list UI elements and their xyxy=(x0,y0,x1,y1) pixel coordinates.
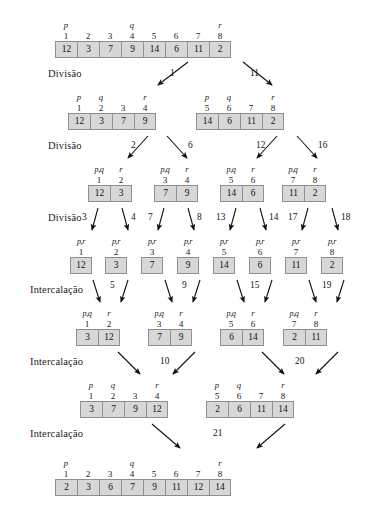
pointer-label xyxy=(77,458,99,469)
array-cell: 9 xyxy=(143,479,165,496)
index-label: 2 xyxy=(98,319,120,329)
array-cells: 211 xyxy=(283,329,327,346)
arrow-step-label: 13 xyxy=(216,212,225,222)
index-row: 34 xyxy=(148,319,192,329)
arrow-9 xyxy=(188,208,194,230)
array-L3-2: p,r23 xyxy=(105,236,127,274)
index-label: 7 xyxy=(187,31,209,41)
index-label: 8 xyxy=(321,247,343,257)
index-row: 7 xyxy=(285,247,307,257)
index-label: 6 xyxy=(249,247,271,257)
pointer-label: q xyxy=(218,92,240,103)
pointer-label: p,q xyxy=(148,308,170,319)
array-L3-3: p,r37 xyxy=(141,236,163,274)
array-L2-b: p,qr3479 xyxy=(154,164,198,202)
index-label: 4 xyxy=(121,31,143,41)
index-label: 1 xyxy=(80,391,102,401)
array-cell: 2 xyxy=(55,479,77,496)
array-cell: 12 xyxy=(68,113,90,130)
array-cell: 14 xyxy=(272,401,294,418)
index-row: 12345678 xyxy=(55,31,231,41)
array-cell: 3 xyxy=(76,329,98,346)
array-cells: 7 xyxy=(141,257,163,274)
pointer-label: q xyxy=(90,92,112,103)
array-cell: 9 xyxy=(134,113,156,130)
index-row: 78 xyxy=(283,319,327,329)
pointer-row: p,qr xyxy=(282,164,326,175)
index-label: 2 xyxy=(77,469,99,479)
index-label: 7 xyxy=(187,469,209,479)
index-label: 2 xyxy=(102,391,124,401)
array-cell: 3 xyxy=(90,113,112,130)
arrow-step-label: 8 xyxy=(197,212,202,222)
index-row: 56 xyxy=(220,175,264,185)
array-cells: 112 xyxy=(282,185,326,202)
pointer-row: p,r xyxy=(141,236,163,247)
pointer-label xyxy=(77,20,99,31)
pointer-label: p xyxy=(206,380,228,391)
index-label: 3 xyxy=(148,319,170,329)
array-cells: 9 xyxy=(177,257,199,274)
index-row: 1 xyxy=(70,247,92,257)
arrow-21 xyxy=(337,280,344,302)
array-cells: 614 xyxy=(220,329,264,346)
index-label: 7 xyxy=(282,175,304,185)
stage-label-1: Divisão xyxy=(48,140,82,151)
array-cells: 2 xyxy=(321,257,343,274)
arrow-step-label: 2 xyxy=(131,140,136,150)
pointer-row: p,r xyxy=(70,236,92,247)
pointer-label xyxy=(250,380,272,391)
array-cell: 9 xyxy=(121,41,143,58)
pointer-row: p,r xyxy=(177,236,199,247)
pointer-label: r xyxy=(209,458,231,469)
pointer-label: p xyxy=(55,20,77,31)
array-cells: 11 xyxy=(285,257,307,274)
arrow-14 xyxy=(93,280,100,302)
stage-label-4: Intercalação xyxy=(30,356,83,367)
array-cell: 9 xyxy=(176,185,198,202)
array-L2-c: p,qr56146 xyxy=(220,164,264,202)
pointer-label: p,r xyxy=(70,236,92,247)
index-label: 4 xyxy=(121,469,143,479)
pointer-label: p,q xyxy=(220,164,242,175)
array-L3-1: p,r112 xyxy=(70,236,92,274)
index-label: 1 xyxy=(55,31,77,41)
pointer-row: p,r xyxy=(321,236,343,247)
array-cells: 12379146112 xyxy=(55,41,231,58)
arrow-step-label: 17 xyxy=(288,212,297,222)
pointer-row: pqr xyxy=(55,458,231,469)
index-label: 3 xyxy=(141,247,163,257)
index-label: 4 xyxy=(146,391,168,401)
index-label: 6 xyxy=(242,175,264,185)
array-cell: 11 xyxy=(282,185,304,202)
pointer-label: r xyxy=(262,92,284,103)
pointer-label: q xyxy=(121,20,143,31)
pointer-row: p,qr xyxy=(220,164,264,175)
array-cells: 12 xyxy=(70,257,92,274)
array-L3-4: p,r49 xyxy=(177,236,199,274)
index-label: 6 xyxy=(218,103,240,113)
array-cells: 261114 xyxy=(206,401,294,418)
index-row: 4 xyxy=(177,247,199,257)
pointer-label: p,q xyxy=(88,164,110,175)
array-M2-right: pqr5678261114 xyxy=(206,380,294,418)
pointer-label: p,r xyxy=(105,236,127,247)
array-cell: 12 xyxy=(70,257,92,274)
array-cell: 11 xyxy=(240,113,262,130)
array-cells: 6 xyxy=(249,257,271,274)
array-M1-a: p,qr12312 xyxy=(76,308,120,346)
index-label: 1 xyxy=(88,175,110,185)
arrow-22 xyxy=(118,352,140,374)
pointer-label xyxy=(143,20,165,31)
arrow-24 xyxy=(262,352,284,374)
arrow-step-label: 12 xyxy=(256,140,265,150)
pointer-label: r xyxy=(98,308,120,319)
arrow-26 xyxy=(152,424,180,448)
array-root: pqr1234567812379146112 xyxy=(55,20,231,58)
pointer-label: r xyxy=(176,164,198,175)
arrow-6 xyxy=(92,208,98,230)
arrow-27 xyxy=(257,424,285,448)
pointer-label: r xyxy=(272,380,294,391)
arrow-23 xyxy=(173,352,195,374)
index-row: 5678 xyxy=(206,391,294,401)
